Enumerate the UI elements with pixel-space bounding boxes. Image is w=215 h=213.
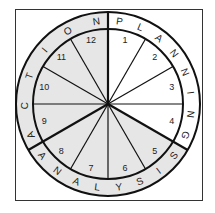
- segment-number: 12: [86, 35, 96, 45]
- phase-letter: N: [92, 15, 101, 27]
- segment-number: 10: [39, 82, 49, 92]
- segment-number: 3: [169, 82, 174, 92]
- phase-letter: C: [19, 102, 30, 109]
- segment-number: 1: [123, 35, 128, 45]
- segment-number: 2: [152, 52, 157, 62]
- segment-number: 5: [152, 146, 157, 156]
- segment-number: 11: [57, 52, 66, 62]
- segment-number: 9: [42, 116, 47, 126]
- segment-number: 8: [59, 146, 64, 156]
- segment-number: 4: [169, 116, 174, 126]
- cycle-diagram: 123456789101112 PLANNINGANALYSISACTION: [0, 0, 215, 213]
- segment-number: 6: [123, 163, 128, 173]
- segment-number: 7: [88, 163, 93, 173]
- phase-letter: N: [185, 110, 197, 119]
